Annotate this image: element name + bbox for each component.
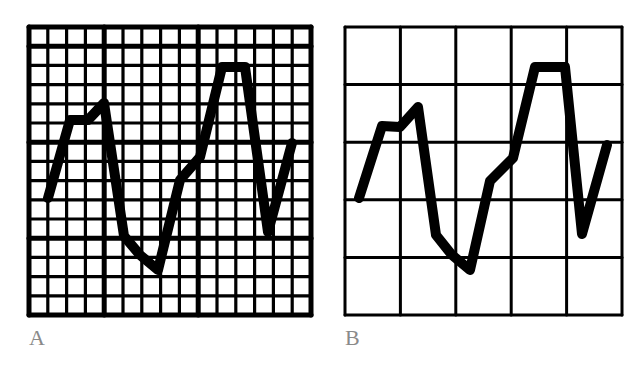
panel-a-label: A <box>29 327 45 349</box>
figure-canvas <box>0 0 643 365</box>
grid-figure <box>0 0 643 365</box>
panel-b-label: B <box>345 327 360 349</box>
panel-a-fine-grid <box>29 27 311 315</box>
waveform-line <box>359 67 607 270</box>
grid-lines <box>29 27 311 315</box>
panel-b-coarse-grid <box>345 27 622 315</box>
